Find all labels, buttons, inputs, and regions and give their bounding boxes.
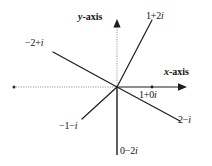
label-minus-1-minus-i: −1−i: [59, 121, 77, 131]
vector-minus-1-minus-i: [82, 87, 117, 119]
vector-1-plus-2i: [117, 20, 152, 87]
y-axis-arrowhead: [113, 19, 120, 28]
label-1-plus-0i: 1+0i: [139, 90, 157, 100]
imaginary-unit-glyph: i: [41, 37, 44, 48]
y-axis-label: y-axis: [78, 12, 102, 22]
imaginary-unit-glyph: i: [161, 10, 164, 21]
imaginary-unit-glyph: i: [188, 114, 191, 125]
label-0-minus-2i: 0−2i: [120, 146, 138, 156]
vector-minus-2-plus-i: [53, 52, 117, 87]
label-2-minus-i: 2−i: [178, 115, 191, 125]
negative-x-axis-endpoint-dot: [13, 86, 16, 89]
label-minus-2-plus-i: −2+i: [25, 38, 43, 48]
complex-plane-figure: 1+2i −2+i 1+0i 2−i −1−i 0−2i x-axis y-ax…: [0, 0, 212, 166]
imaginary-unit-glyph: i: [75, 120, 78, 131]
imaginary-unit-glyph: i: [154, 89, 157, 100]
imaginary-unit-glyph: i: [135, 145, 138, 156]
figure-canvas: [0, 0, 212, 166]
label-1-plus-2i: 1+2i: [146, 11, 164, 21]
x-axis-arrowhead: [178, 83, 187, 91]
x-axis-label: x-axis: [164, 67, 189, 77]
point-1-plus-0i: [151, 86, 154, 89]
